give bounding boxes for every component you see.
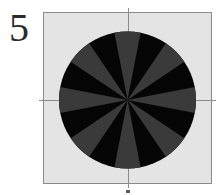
caption-fragment-mark — [126, 190, 130, 193]
figure-panel: 5 — [0, 0, 223, 195]
figure-graphic — [0, 0, 223, 195]
gray-wedges — [59, 32, 196, 169]
asterisk-disk-group — [59, 32, 196, 169]
